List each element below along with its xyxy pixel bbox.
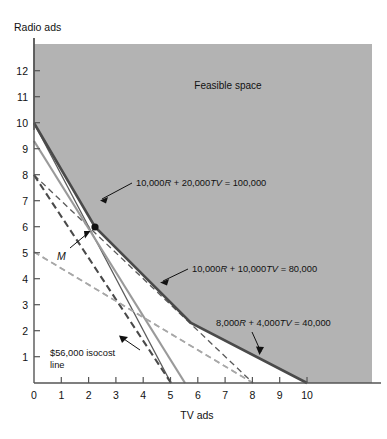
annot3-p3: TV xyxy=(280,318,293,328)
annot2-p2: + 10,000 xyxy=(227,264,266,274)
y-tick-2: 2 xyxy=(22,325,28,337)
x-tick-1: 1 xyxy=(58,389,64,401)
y-tick-10: 10 xyxy=(16,117,28,129)
annot1-p2: + 20,000 xyxy=(171,178,210,188)
y-tick-6: 6 xyxy=(22,221,28,233)
x-tick-10: 10 xyxy=(301,389,313,401)
annot4-arrowhead xyxy=(119,336,128,344)
annot2-p3: TV xyxy=(266,264,279,274)
linear-programming-chart: 12 11 10 9 8 7 6 5 4 3 2 1 0 1 2 3 4 5 6… xyxy=(0,0,387,439)
isocost-label-line2: line xyxy=(50,360,64,370)
x-tick-6: 6 xyxy=(195,389,201,401)
y-tick-3: 3 xyxy=(22,299,28,311)
feasible-space-region xyxy=(34,44,372,383)
x-tick-5: 5 xyxy=(168,389,174,401)
x-tick-0: 0 xyxy=(31,389,37,401)
annot2-p4: = 80,000 xyxy=(278,264,317,274)
annot3-p4: = 40,000 xyxy=(292,318,331,328)
svg-text:10,000R + 10,000TV = 80,000: 10,000R + 10,000TV = 80,000 xyxy=(192,264,317,274)
y-tick-11: 11 xyxy=(17,91,28,103)
x-tick-labels: 0 1 2 3 4 5 6 7 8 9 10 xyxy=(31,389,313,401)
y-axis-title: Radio ads xyxy=(14,21,61,33)
x-tick-7: 7 xyxy=(222,389,228,401)
x-tick-3: 3 xyxy=(113,389,119,401)
feasible-space-label: Feasible space xyxy=(194,80,262,91)
y-tick-9: 9 xyxy=(22,143,28,155)
annot1-p0: 10,000 xyxy=(136,178,164,188)
y-tick-5: 5 xyxy=(22,247,28,259)
annotation-isocost: $56,000 isocost line xyxy=(50,336,140,371)
y-tick-1: 1 xyxy=(22,351,28,363)
svg-text:10,000R + 20,000TV = 100,000: 10,000R + 20,000TV = 100,000 xyxy=(136,178,266,188)
x-tick-9: 9 xyxy=(277,389,283,401)
optimal-point-arrowhead xyxy=(84,231,91,239)
annot1-p3: TV xyxy=(210,178,223,188)
y-tick-labels: 12 11 10 9 8 7 6 5 4 3 2 1 xyxy=(16,65,28,363)
svg-text:8,000R + 4,000TV = 40,000: 8,000R + 4,000TV = 40,000 xyxy=(216,318,331,328)
optimal-point-label: M xyxy=(57,250,66,262)
annot2-p0: 10,000 xyxy=(192,264,220,274)
chart-container: 12 11 10 9 8 7 6 5 4 3 2 1 0 1 2 3 4 5 6… xyxy=(0,0,387,439)
y-tick-8: 8 xyxy=(22,169,28,181)
x-tick-2: 2 xyxy=(86,389,92,401)
y-tick-4: 4 xyxy=(22,273,28,285)
y-tick-12: 12 xyxy=(16,65,28,77)
x-axis-title: TV ads xyxy=(180,409,213,421)
isocost-label-line1: $56,000 isocost xyxy=(50,348,116,358)
annot3-p2: + 4,000 xyxy=(246,318,280,328)
optimal-point-marker xyxy=(91,223,98,230)
y-tick-7: 7 xyxy=(22,195,28,207)
annot1-p4: = 100,000 xyxy=(222,178,266,188)
annot3-p0: 8,000 xyxy=(216,318,239,328)
x-tick-8: 8 xyxy=(249,389,255,401)
x-tick-4: 4 xyxy=(140,389,146,401)
